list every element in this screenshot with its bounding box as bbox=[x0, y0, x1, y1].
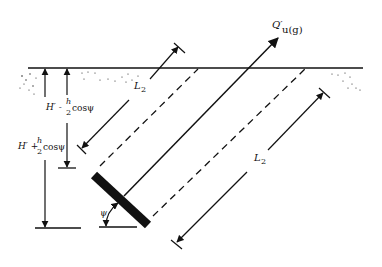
length-top-tick-lower bbox=[77, 145, 86, 154]
angle-arc bbox=[106, 203, 118, 226]
depth-lower-label-numerator: h bbox=[37, 136, 42, 145]
uplift-force-line bbox=[124, 38, 278, 196]
soil-stipple bbox=[19, 71, 360, 94]
length-right-tick-upper bbox=[319, 88, 330, 98]
length-right-tick-lower bbox=[171, 240, 182, 249]
length-right-dimension-upper bbox=[268, 93, 323, 150]
depth-upper-label-denominator: 2 bbox=[66, 108, 71, 117]
length-top-label: L bbox=[133, 80, 141, 91]
length-top-tick-upper bbox=[174, 43, 185, 53]
depth-lower-label-prefix: H′ + bbox=[17, 141, 38, 151]
anchor-diagram: Q′ u(g) L 2 L 2 H′ - h 2 cosψ H′ + h 2 c… bbox=[0, 0, 382, 267]
depth-upper-label-prefix: H′ - bbox=[45, 102, 62, 112]
depth-upper-label-cos: cosψ bbox=[72, 103, 94, 113]
depth-lower-label-denominator: 2 bbox=[37, 147, 42, 156]
depth-lower-label-cos: cosψ bbox=[43, 142, 65, 152]
length-top-label-subscript: 2 bbox=[141, 85, 146, 94]
angle-label: ψ bbox=[100, 208, 108, 218]
length-right-label-subscript: 2 bbox=[261, 157, 266, 166]
force-label-subscript: u(g) bbox=[282, 24, 303, 35]
length-top-dimension-upper bbox=[150, 47, 178, 79]
length-right-label: L bbox=[253, 152, 261, 163]
depth-upper-label-numerator: h bbox=[66, 97, 71, 106]
failure-line-upper bbox=[100, 69, 198, 166]
